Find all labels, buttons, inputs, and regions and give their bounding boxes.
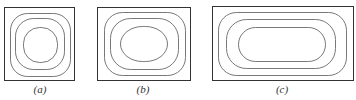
panel-a-label: (a) [34,84,47,95]
streamline-figure: (a) (b) (c) [0,0,356,100]
panel-c-frame [213,7,354,81]
panel-b-contour-inner [121,27,168,62]
panel-b-label: (b) [137,84,150,95]
streamline-panels [0,0,356,100]
panel-c [213,7,354,81]
panel-c-contour-inner [239,28,326,62]
panel-b-contour-outer [105,13,186,76]
panel-a-contour-outer [11,14,71,77]
panel-c-contour-outer [219,13,347,76]
panel-b [98,8,191,81]
panel-a [5,8,75,81]
panel-a-contour-inner [24,28,58,63]
panel-c-label: (c) [276,84,288,95]
